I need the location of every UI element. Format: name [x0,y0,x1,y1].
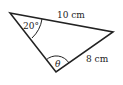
triangle-diagram: 20° 10 cm θ 8 cm [0,0,123,85]
angle-label-top-left: 20° [23,21,39,31]
angle-label-bottom: θ [55,59,61,69]
side-label-right: 8 cm [86,54,109,64]
side-label-top: 10 cm [57,10,85,20]
